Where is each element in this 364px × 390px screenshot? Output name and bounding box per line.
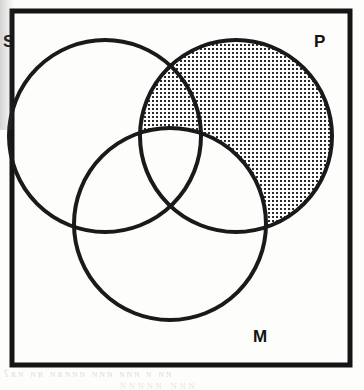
venn-diagram-figure: S P M ʕʀɴ ɴʀ ɴʀɴɴɴ ɴɴɴ ɴɴɴ ɴ ɴɴ ɴɴɴɴɴ ɴɴ… bbox=[0, 0, 364, 390]
label-m: M bbox=[253, 327, 267, 346]
label-s: S bbox=[3, 32, 14, 51]
venn-diagram-svg: S P M bbox=[0, 0, 364, 390]
label-p: P bbox=[314, 32, 325, 51]
